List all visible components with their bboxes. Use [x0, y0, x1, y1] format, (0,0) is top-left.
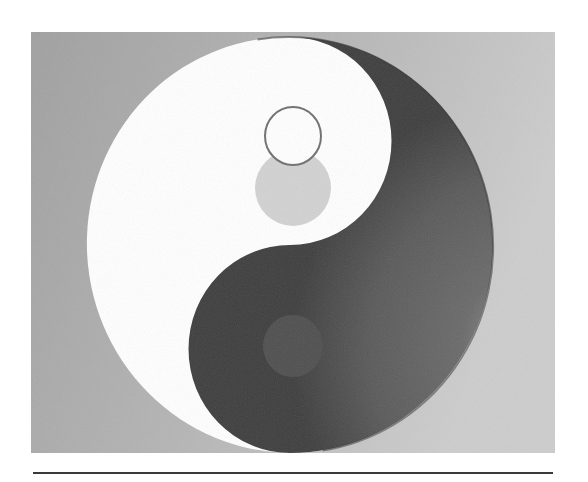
- yin-yang-image: [31, 32, 555, 453]
- horizontal-rule: [33, 472, 553, 474]
